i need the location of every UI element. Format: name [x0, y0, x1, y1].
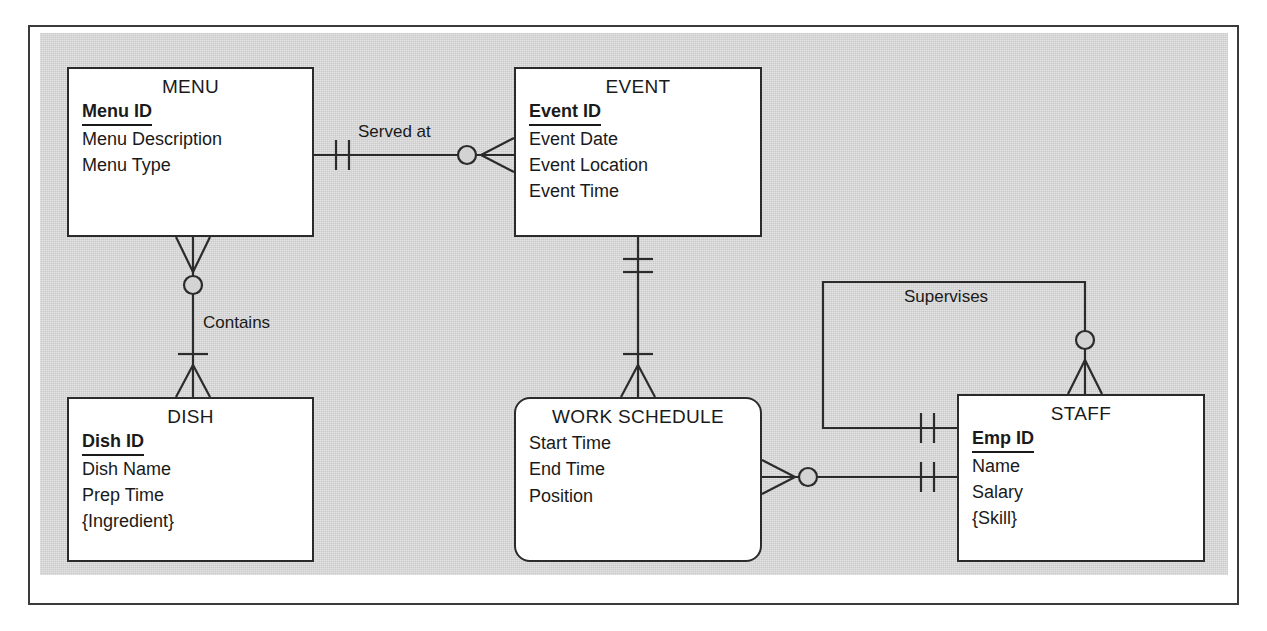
entity-menu-attribute: Menu Description — [82, 126, 312, 152]
entity-menu-attributes: Menu ID Menu Description Menu Type — [69, 100, 312, 178]
relationship-label-contains: Contains — [203, 313, 270, 333]
entity-staff-primary-key: Emp ID — [972, 427, 1034, 453]
entity-event-attribute: Event Date — [529, 126, 760, 152]
entity-staff-attribute: Salary — [972, 479, 1203, 505]
entity-staff-key-row: Emp ID — [972, 427, 1203, 453]
entity-staff-title: STAFF — [959, 403, 1203, 425]
entity-work-schedule-attribute: End Time — [529, 456, 760, 482]
entity-dish-attributes: Dish ID Dish Name Prep Time {Ingredient} — [69, 430, 312, 535]
entity-dish[interactable]: DISH Dish ID Dish Name Prep Time {Ingred… — [67, 397, 314, 562]
entity-event-primary-key: Event ID — [529, 100, 601, 126]
entity-menu-title: MENU — [69, 76, 312, 98]
entity-staff-attribute: Name — [972, 453, 1203, 479]
entity-event-title: EVENT — [516, 76, 760, 98]
entity-work-schedule-title: WORK SCHEDULE — [516, 406, 760, 428]
entity-event-key-row: Event ID — [529, 100, 760, 126]
entity-work-schedule-attribute: Start Time — [529, 430, 760, 456]
entity-menu-primary-key: Menu ID — [82, 100, 152, 126]
entity-event[interactable]: EVENT Event ID Event Date Event Location… — [514, 67, 762, 237]
er-diagram-page: MENU Menu ID Menu Description Menu Type … — [0, 0, 1267, 631]
entity-dish-title: DISH — [69, 406, 312, 428]
entity-work-schedule-attribute: Position — [529, 483, 760, 509]
entity-event-attributes: Event ID Event Date Event Location Event… — [516, 100, 760, 205]
entity-event-attribute: Event Location — [529, 152, 760, 178]
relationship-label-supervises: Supervises — [904, 287, 988, 307]
entity-staff-attributes: Emp ID Name Salary {Skill} — [959, 427, 1203, 532]
entity-dish-attribute: Dish Name — [82, 456, 312, 482]
entity-dish-attribute: {Ingredient} — [82, 508, 312, 534]
entity-event-attribute: Event Time — [529, 178, 760, 204]
relationship-label-served-at: Served at — [358, 122, 431, 142]
entity-work-schedule-attributes: Start Time End Time Position — [516, 430, 760, 509]
entity-menu[interactable]: MENU Menu ID Menu Description Menu Type — [67, 67, 314, 237]
entity-dish-key-row: Dish ID — [82, 430, 312, 456]
entity-menu-key-row: Menu ID — [82, 100, 312, 126]
entity-staff-attribute: {Skill} — [972, 505, 1203, 531]
entity-work-schedule[interactable]: WORK SCHEDULE Start Time End Time Positi… — [514, 397, 762, 562]
entity-dish-primary-key: Dish ID — [82, 430, 144, 456]
entity-dish-attribute: Prep Time — [82, 482, 312, 508]
entity-staff[interactable]: STAFF Emp ID Name Salary {Skill} — [957, 394, 1205, 562]
entity-menu-attribute: Menu Type — [82, 152, 312, 178]
